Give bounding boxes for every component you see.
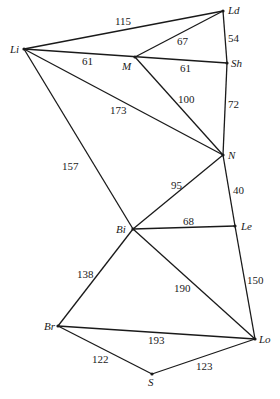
edge-bi-lo	[133, 229, 255, 339]
weighted-graph: Li Ld M Sh N Bi Le Br Lo S 115 61 67 54 …	[0, 0, 280, 399]
edge-m-ld	[135, 11, 223, 57]
weight-n-le: 40	[233, 184, 245, 196]
node-dot-br	[56, 324, 59, 327]
weight-m-n: 100	[178, 93, 195, 105]
weight-li-sh: 61	[82, 55, 93, 67]
edge-bi-n	[133, 155, 223, 229]
weight-bi-n: 95	[171, 179, 183, 191]
weight-bi-br: 138	[77, 268, 94, 280]
edge-m-n	[135, 57, 223, 155]
node-dot-lo	[253, 337, 256, 340]
weight-li-n: 173	[110, 104, 127, 116]
weight-bi-le: 68	[183, 215, 195, 227]
node-label-ld: Ld	[227, 4, 240, 16]
node-label-n: N	[227, 149, 236, 161]
weight-br-lo: 193	[148, 334, 165, 346]
edge-ld-sh	[223, 11, 227, 63]
weight-m-sh: 61	[180, 62, 191, 74]
weight-m-ld: 67	[177, 35, 189, 47]
node-dot-li	[22, 47, 25, 50]
node-dot-bi	[131, 227, 134, 230]
node-dot-le	[233, 224, 236, 227]
edge-sh-n	[223, 63, 227, 155]
node-dot-ld	[221, 9, 224, 12]
node-label-m: M	[121, 60, 132, 72]
weight-br-s: 122	[92, 353, 109, 365]
node-label-s: S	[148, 376, 154, 388]
edge-bi-br	[58, 229, 133, 326]
node-label-le: Le	[240, 220, 252, 232]
node-dot-sh	[225, 61, 228, 64]
node-label-br: Br	[44, 320, 56, 332]
edge-br-s	[58, 326, 152, 374]
weight-sh-n: 72	[228, 98, 239, 110]
weight-le-lo: 150	[247, 274, 264, 286]
weight-s-lo: 123	[196, 360, 213, 372]
weight-ld-sh: 54	[228, 32, 240, 44]
weight-li-ld: 115	[115, 15, 132, 27]
weight-li-bi: 157	[62, 160, 79, 172]
node-label-lo: Lo	[258, 333, 271, 345]
edge-li-bi	[24, 49, 133, 229]
node-label-bi: Bi	[116, 223, 126, 235]
weight-bi-lo: 190	[174, 282, 191, 294]
node-label-sh: Sh	[231, 57, 243, 69]
node-dot-m	[133, 55, 136, 58]
node-dot-n	[221, 153, 224, 156]
node-label-li: Li	[9, 43, 19, 55]
